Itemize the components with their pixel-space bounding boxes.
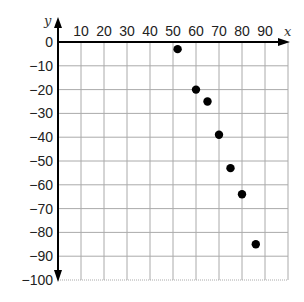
y-tick-label: −80 <box>29 224 53 240</box>
x-tick-label: 70 <box>211 23 227 39</box>
x-tick-labels: 102030405060708090 <box>73 23 273 39</box>
data-point <box>215 131 223 139</box>
x-tick-label: 40 <box>142 23 158 39</box>
y-tick-label: −100 <box>21 272 53 288</box>
x-tick-label: 20 <box>96 23 112 39</box>
data-point <box>173 45 181 53</box>
x-tick-label: 90 <box>257 23 273 39</box>
y-tick-label: −50 <box>29 153 53 169</box>
x-axis-label: x <box>284 24 292 39</box>
y-tick-label: −40 <box>29 129 53 145</box>
data-point <box>238 190 246 198</box>
data-point <box>192 85 200 93</box>
data-point <box>252 240 260 248</box>
y-tick-label: −60 <box>29 177 53 193</box>
x-tick-label: 60 <box>188 23 204 39</box>
y-tick-label: −70 <box>29 201 53 217</box>
x-tick-label: 10 <box>73 23 89 39</box>
y-tick-label: 0 <box>45 34 53 50</box>
y-tick-label: −10 <box>29 58 53 74</box>
data-points <box>173 45 260 249</box>
y-axis-label: y <box>43 13 52 28</box>
x-tick-label: 30 <box>119 23 135 39</box>
data-point <box>226 164 234 172</box>
y-tick-label: −30 <box>29 105 53 121</box>
data-point <box>203 97 211 105</box>
y-tick-labels: 0−10−20−30−40−50−60−70−80−90−100 <box>21 34 53 288</box>
scatter-chart: 102030405060708090 0−10−20−30−40−50−60−7… <box>0 0 304 302</box>
y-axis-arrow-up-icon <box>54 17 62 28</box>
y-tick-label: −20 <box>29 82 53 98</box>
x-tick-label: 80 <box>234 23 250 39</box>
y-tick-label: −90 <box>29 248 53 264</box>
x-tick-label: 50 <box>165 23 181 39</box>
